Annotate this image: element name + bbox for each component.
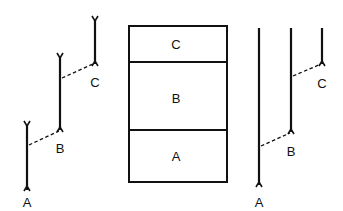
column-section-b-label: B (172, 91, 181, 106)
stratigraphy-diagram: A B C C B A A B C (0, 0, 343, 211)
left-segment-b-top-fork-icon (57, 53, 63, 58)
left-label-c: C (90, 75, 99, 90)
left-label-b: B (56, 141, 65, 156)
left-link-b-c (62, 64, 93, 78)
right-label-a: A (255, 195, 264, 210)
left-segment-a-top-fork-icon (24, 121, 30, 126)
column-section-a-label: A (172, 149, 181, 164)
left-segment-c-top-fork-icon (92, 16, 98, 21)
left-label-a: A (23, 195, 32, 210)
left-link-a-b (29, 131, 59, 145)
left-segment-group (24, 16, 98, 191)
right-segment-group (256, 28, 325, 187)
right-label-c: C (317, 76, 326, 91)
right-label-b: B (287, 144, 296, 159)
column-section-c-label: C (171, 37, 180, 52)
right-link-b-c (293, 64, 321, 76)
right-link-a-b (261, 133, 290, 146)
